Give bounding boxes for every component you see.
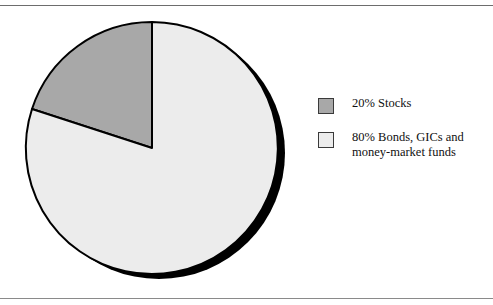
pie-slices [26, 22, 278, 274]
bottom-divider-rule [0, 298, 493, 299]
pie-chart-svg [18, 14, 298, 289]
legend-label-stocks: 20% Stocks [352, 96, 411, 111]
chart-page: 20% Stocks 80% Bonds, GICs and money-mar… [0, 0, 493, 305]
legend: 20% Stocks 80% Bonds, GICs and money-mar… [318, 96, 483, 176]
legend-item-bonds[interactable]: 80% Bonds, GICs and money-market funds [318, 130, 483, 160]
pie-chart [18, 14, 298, 289]
legend-label-bonds: 80% Bonds, GICs and money-market funds [352, 130, 464, 160]
legend-item-stocks[interactable]: 20% Stocks [318, 96, 483, 114]
top-divider-rule [0, 5, 493, 6]
legend-swatch-bonds-icon [318, 132, 334, 148]
legend-swatch-stocks-icon [318, 98, 334, 114]
